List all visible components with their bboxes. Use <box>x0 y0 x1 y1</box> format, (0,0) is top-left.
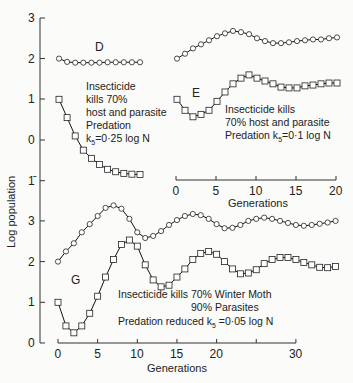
data-point-circle <box>198 213 203 218</box>
data-point-square <box>238 75 244 81</box>
x-tick-label-g: 15 <box>170 347 184 361</box>
data-point-circle <box>182 51 187 56</box>
y-tick-label: 1̄ <box>28 174 37 188</box>
data-point-circle <box>121 60 126 65</box>
x-tick-label-g: 0 <box>55 347 62 361</box>
data-point-circle <box>182 213 187 218</box>
data-point-circle <box>309 222 314 227</box>
data-point-circle <box>230 28 235 33</box>
data-point-circle <box>158 228 163 233</box>
data-point-square <box>269 257 275 263</box>
data-point-square <box>309 262 315 268</box>
data-point-square <box>126 237 132 243</box>
data-point-square <box>190 257 196 263</box>
data-point-square <box>317 264 323 270</box>
data-point-circle <box>103 205 108 210</box>
data-point-square <box>55 299 61 305</box>
data-point-circle <box>190 46 195 51</box>
annotation-g-line3: Predation reduced k5 =0·05 log N <box>118 315 273 329</box>
x-ticks-e: 05101520 <box>173 176 343 198</box>
data-point-square <box>190 114 196 120</box>
y-tick-label: 3 <box>28 214 35 228</box>
data-point-circle <box>333 218 338 223</box>
x-tick-label-g: 5 <box>94 347 101 361</box>
annotation-e-line1: Insecticide kills <box>225 103 295 115</box>
data-point-circle <box>278 41 283 46</box>
data-point-circle <box>174 217 179 222</box>
data-point-square <box>206 248 212 254</box>
x-axis-label-e: Generations <box>228 197 288 209</box>
data-point-circle <box>214 34 219 39</box>
annotation-e-line3: Predation k5=0·1 log N <box>225 129 331 143</box>
x-tick-label-g: 20 <box>210 347 224 361</box>
panel-label-d: D <box>95 40 104 54</box>
data-point-circle <box>238 30 243 35</box>
y-tick-label: 2 <box>28 52 35 66</box>
data-point-square <box>285 255 291 261</box>
data-point-square <box>198 111 204 117</box>
data-point-square <box>121 170 127 176</box>
data-point-square <box>325 265 331 271</box>
x-tick-label-e: 20 <box>329 184 343 198</box>
data-point-square <box>137 172 143 178</box>
data-point-circle <box>55 259 60 264</box>
data-point-square <box>105 166 111 172</box>
annotation-g-line1: Insecticide kills 70% Winter Moth <box>118 288 272 300</box>
data-point-circle <box>301 223 306 228</box>
data-point-square <box>64 115 70 121</box>
data-point-circle <box>254 216 259 221</box>
data-point-circle <box>135 230 140 235</box>
data-point-square <box>334 80 340 86</box>
data-point-square <box>142 262 148 268</box>
data-point-circle <box>143 235 148 240</box>
data-point-square <box>333 263 339 269</box>
data-point-square <box>262 78 268 84</box>
data-point-circle <box>254 36 259 41</box>
data-point-circle <box>190 211 195 216</box>
data-point-circle <box>318 37 323 42</box>
data-point-square <box>310 82 316 88</box>
data-point-circle <box>277 218 282 223</box>
data-point-square <box>118 242 124 248</box>
data-point-square <box>326 80 332 86</box>
data-point-circle <box>97 60 102 65</box>
data-point-square <box>245 270 251 276</box>
data-point-circle <box>56 56 61 61</box>
data-point-square <box>56 96 62 102</box>
x-axis-label-g: Generations <box>147 362 207 374</box>
data-point-circle <box>63 249 68 254</box>
data-point-circle <box>127 216 132 221</box>
panel-label-e: E <box>192 86 200 100</box>
annotation-g-line2: 90% Parasites <box>191 301 259 313</box>
data-point-circle <box>73 60 78 65</box>
data-point-circle <box>214 222 219 227</box>
data-point-square <box>286 85 292 91</box>
data-point-circle <box>222 226 227 231</box>
data-point-square <box>301 259 307 265</box>
data-point-square <box>198 250 204 256</box>
data-point-square <box>237 271 243 277</box>
data-point-circle <box>334 35 339 40</box>
data-point-circle <box>166 222 171 227</box>
data-point-circle <box>79 230 84 235</box>
data-point-circle <box>310 37 315 42</box>
data-point-circle <box>246 218 251 223</box>
data-point-square <box>222 259 228 265</box>
y-tick-label: 1 <box>28 92 35 106</box>
data-point-square <box>113 169 119 175</box>
data-point-circle <box>285 220 290 225</box>
annotation-d-line1: Insecticide <box>86 80 136 92</box>
annotation-d-line2: kills 70% <box>86 93 127 105</box>
data-point-circle <box>325 220 330 225</box>
data-point-circle <box>65 59 70 64</box>
data-point-circle <box>262 38 267 43</box>
data-point-circle <box>119 206 124 211</box>
data-point-circle <box>230 225 235 230</box>
data-point-square <box>293 257 299 263</box>
data-point-circle <box>293 222 298 227</box>
y-tick-label: 3 <box>28 11 35 25</box>
data-point-circle <box>105 60 110 65</box>
x-tick-label-e: 15 <box>289 184 303 198</box>
data-point-circle <box>270 216 275 221</box>
data-point-circle <box>198 42 203 47</box>
